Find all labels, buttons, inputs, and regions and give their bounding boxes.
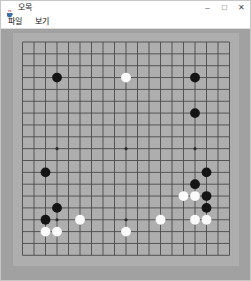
stone-white <box>179 191 189 201</box>
menu-view[interactable]: 보기 <box>35 15 49 28</box>
menubar: 파일 보기 <box>1 15 250 29</box>
minimize-button[interactable]: – <box>199 1 216 15</box>
stone-black <box>52 73 62 83</box>
go-board[interactable] <box>13 33 239 266</box>
close-button[interactable]: ✕ <box>233 1 250 15</box>
stone-black <box>190 108 200 118</box>
stone-white <box>121 73 131 83</box>
titlebar: 오목 – □ ✕ <box>1 1 250 15</box>
stone-black <box>190 179 200 189</box>
stone-white <box>41 227 51 237</box>
star-point <box>55 147 58 150</box>
window-title: 오목 <box>18 1 32 15</box>
stone-black <box>52 203 62 213</box>
star-point <box>193 147 196 150</box>
star-point <box>55 218 58 221</box>
window-controls: – □ ✕ <box>199 1 250 15</box>
stone-black <box>202 167 212 177</box>
stone-black <box>202 191 212 201</box>
stone-black <box>202 203 212 213</box>
java-app-icon <box>5 4 14 13</box>
stone-black <box>41 167 51 177</box>
stone-black <box>190 73 200 83</box>
stone-white <box>121 227 131 237</box>
stone-white <box>202 215 212 225</box>
stone-white <box>190 191 200 201</box>
app-window: 오목 – □ ✕ 파일 보기 <box>0 0 251 281</box>
maximize-button[interactable]: □ <box>216 1 233 15</box>
stone-white <box>52 227 62 237</box>
stone-white <box>156 215 166 225</box>
menu-file[interactable]: 파일 <box>8 15 22 28</box>
board-panel <box>1 29 250 280</box>
stone-white <box>75 215 85 225</box>
stone-white <box>190 215 200 225</box>
board-grid <box>13 33 239 266</box>
star-point <box>124 147 127 150</box>
stone-black <box>41 215 51 225</box>
star-point <box>124 218 127 221</box>
